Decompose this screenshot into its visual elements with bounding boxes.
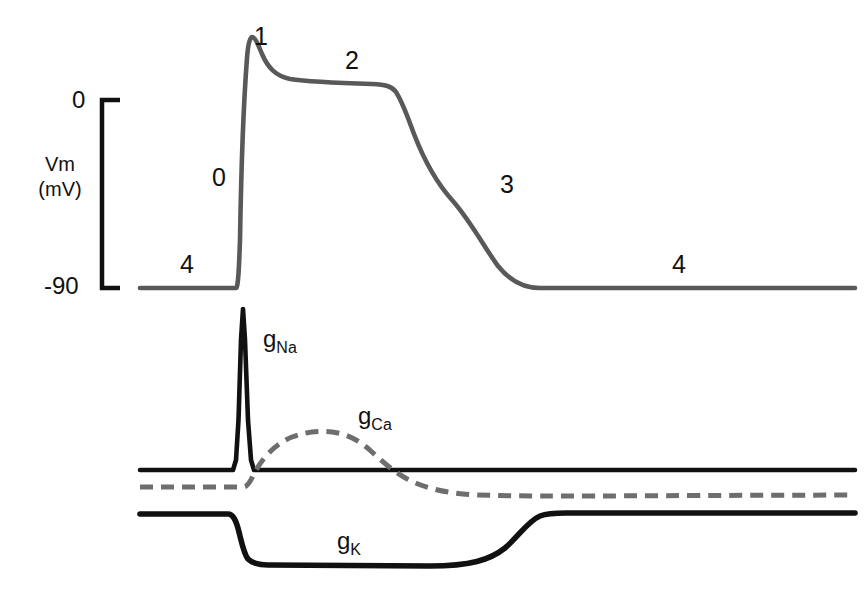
y-axis-title: Vm (mV)	[24, 152, 96, 202]
action-potential-trace	[140, 37, 855, 288]
y-axis-title-line1: Vm	[45, 153, 75, 175]
g-k-label: gK	[337, 529, 361, 558]
action-potential-figure: 0 -90 Vm (mV) 4 0 1 2 3 4 gNa gCa gK	[0, 0, 865, 596]
g-na-label: gNa	[263, 327, 297, 356]
g-k-trace	[140, 513, 855, 566]
phase-label-1: 1	[254, 24, 268, 49]
g-na-subscript: Na	[276, 339, 297, 356]
g-ca-label: gCa	[358, 404, 392, 433]
g-ca-symbol: g	[358, 402, 371, 429]
y-axis-bracket	[102, 100, 120, 288]
g-ca-trace	[140, 431, 855, 496]
phase-label-4-right: 4	[672, 252, 686, 277]
g-na-trace	[140, 309, 855, 470]
figure-canvas	[0, 0, 865, 596]
axis-tick-bottom: -90	[44, 274, 79, 298]
y-axis-title-line2: (mV)	[38, 178, 81, 200]
g-na-symbol: g	[263, 325, 276, 352]
phase-label-0: 0	[212, 165, 226, 190]
g-k-subscript: K	[350, 541, 361, 558]
g-k-symbol: g	[337, 527, 350, 554]
axis-tick-top: 0	[72, 88, 85, 112]
phase-label-4-left: 4	[180, 252, 194, 277]
phase-label-2: 2	[345, 48, 359, 73]
g-ca-subscript: Ca	[371, 416, 392, 433]
phase-label-3: 3	[500, 172, 514, 197]
